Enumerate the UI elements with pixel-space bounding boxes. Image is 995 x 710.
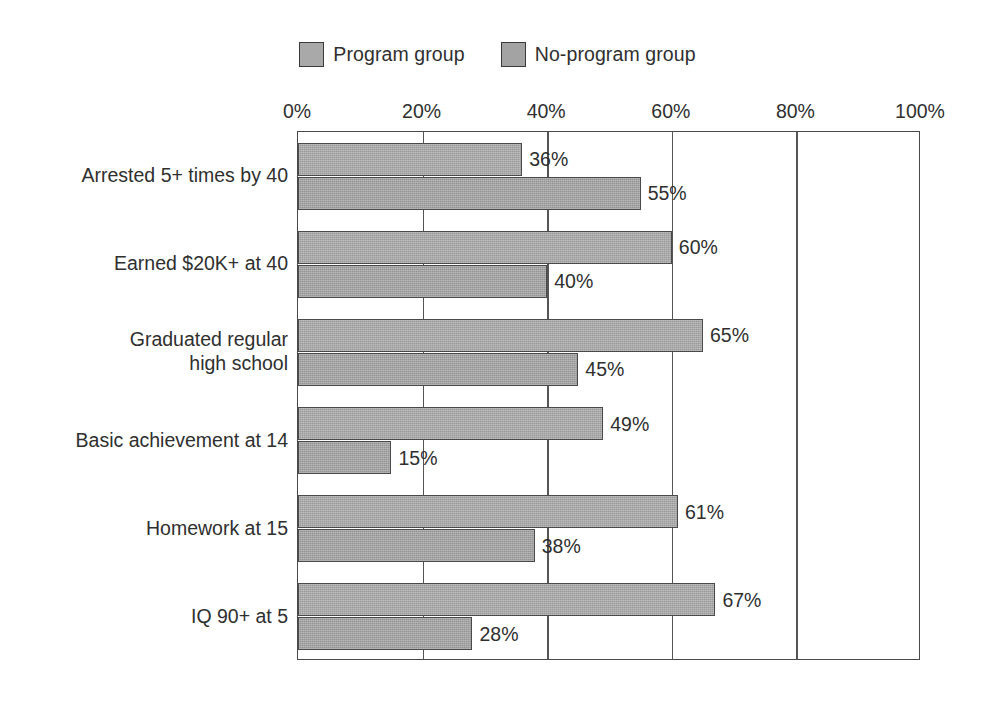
bar: [298, 441, 391, 474]
plot-area: 36%55%60%40%65%45%49%15%61%38%67%28%: [297, 131, 920, 660]
bar: [298, 617, 472, 650]
bar-value-label: 15%: [398, 446, 437, 469]
y-category-label-line: high school: [20, 351, 288, 375]
x-tick-label: 0%: [283, 100, 311, 123]
legend-item-label: Program group: [333, 43, 464, 66]
bar-value-label: 45%: [585, 358, 624, 381]
x-axis-tick-labels: 0%20%40%60%80%100%: [297, 100, 920, 124]
bar: [298, 407, 603, 440]
chart-legend: Program groupNo-program group: [0, 42, 995, 67]
y-category-label-line: Basic achievement at 14: [20, 428, 288, 452]
bar-value-label: 38%: [542, 534, 581, 557]
bar: [298, 265, 547, 298]
bar: [298, 231, 672, 264]
bar-value-label: 60%: [679, 236, 718, 259]
y-category-label-line: Homework at 15: [20, 516, 288, 540]
bar: [298, 583, 715, 616]
bar-value-label: 28%: [479, 622, 518, 645]
gridline: [796, 132, 797, 659]
y-category-label-line: Arrested 5+ times by 40: [20, 163, 288, 187]
y-category-label: Homework at 15: [20, 516, 288, 540]
bar: [298, 177, 641, 210]
bar: [298, 319, 703, 352]
legend-item[interactable]: No-program group: [501, 42, 696, 67]
y-category-label-line: Graduated regular: [20, 327, 288, 351]
bar-value-label: 49%: [610, 412, 649, 435]
y-category-label: Earned $20K+ at 40: [20, 251, 288, 275]
y-category-label-line: IQ 90+ at 5: [20, 604, 288, 628]
y-category-label-line: Earned $20K+ at 40: [20, 251, 288, 275]
bar: [298, 143, 522, 176]
bar-value-label: 67%: [722, 588, 761, 611]
bar-value-label: 55%: [648, 182, 687, 205]
x-tick-label: 20%: [402, 100, 441, 123]
y-category-label: Graduated regularhigh school: [20, 327, 288, 375]
bar-value-label: 61%: [685, 500, 724, 523]
y-category-label: Arrested 5+ times by 40: [20, 163, 288, 187]
gridline: [547, 132, 548, 659]
bar-value-label: 40%: [554, 270, 593, 293]
bar-value-label: 65%: [710, 324, 749, 347]
y-axis-category-labels: Arrested 5+ times by 40Earned $20K+ at 4…: [20, 131, 288, 660]
gridline: [672, 132, 673, 659]
legend-item[interactable]: Program group: [299, 42, 464, 67]
bar-value-label: 36%: [529, 148, 568, 171]
x-tick-label: 100%: [895, 100, 945, 123]
legend-swatch-icon: [501, 42, 526, 67]
x-tick-label: 60%: [651, 100, 690, 123]
gridline: [423, 132, 424, 659]
bar: [298, 353, 578, 386]
y-category-label: Basic achievement at 14: [20, 428, 288, 452]
legend-item-label: No-program group: [535, 43, 696, 66]
legend-swatch-icon: [299, 42, 324, 67]
bar: [298, 529, 535, 562]
bar-chart: Program groupNo-program group 0%20%40%60…: [0, 0, 995, 710]
bar: [298, 495, 678, 528]
x-tick-label: 80%: [776, 100, 815, 123]
y-category-label: IQ 90+ at 5: [20, 604, 288, 628]
x-tick-label: 40%: [527, 100, 566, 123]
